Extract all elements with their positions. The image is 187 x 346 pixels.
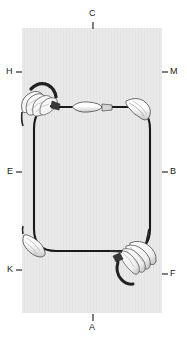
label-E: E: [7, 167, 13, 176]
label-K: K: [7, 265, 13, 274]
technical-drawing: [0, 0, 187, 346]
label-F: F: [170, 269, 176, 278]
label-C: C: [89, 9, 96, 18]
label-B: B: [170, 167, 176, 176]
label-H: H: [6, 67, 13, 76]
label-A: A: [89, 323, 95, 332]
label-M: M: [170, 67, 178, 76]
figure-canvas: C M H B E F K A: [0, 0, 187, 346]
